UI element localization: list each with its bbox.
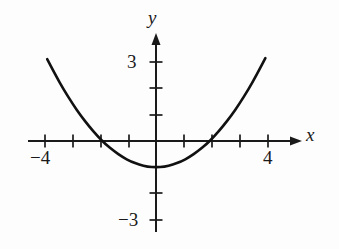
y-axis-label: y (148, 8, 156, 27)
x-axis-label: x (306, 125, 314, 144)
y-tick-label-3: 3 (127, 52, 137, 71)
y-tick-label-neg3: −3 (118, 210, 138, 229)
x-tick-label-4: 4 (263, 148, 273, 167)
x-tick-label-neg4: −4 (30, 148, 50, 167)
y-axis-arrowhead (152, 33, 161, 45)
graph-figure: −4 4 3 −3 x y (0, 0, 339, 249)
coordinate-plane-plot (0, 0, 339, 249)
x-axis-arrowhead (290, 137, 302, 146)
